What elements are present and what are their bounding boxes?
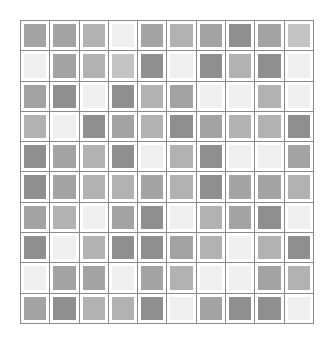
grid-cell[interactable]	[80, 112, 109, 142]
grid-cell[interactable]	[167, 112, 196, 142]
grid-cell[interactable]	[255, 233, 284, 263]
grid-cell[interactable]	[109, 233, 138, 263]
grid-cell[interactable]	[226, 172, 255, 202]
grid-cell[interactable]	[138, 51, 167, 81]
grid-cell[interactable]	[167, 172, 196, 202]
grid-cell[interactable]	[167, 294, 196, 324]
grid-cell[interactable]	[285, 82, 314, 112]
grid-cell[interactable]	[50, 294, 79, 324]
grid-cell[interactable]	[285, 172, 314, 202]
grid-cell[interactable]	[255, 263, 284, 293]
grid-cell[interactable]	[167, 82, 196, 112]
grid-cell[interactable]	[226, 203, 255, 233]
grid-cell[interactable]	[109, 21, 138, 51]
grid-cell[interactable]	[197, 112, 226, 142]
grid-cell[interactable]	[50, 263, 79, 293]
grid-cell[interactable]	[226, 112, 255, 142]
grid-cell[interactable]	[167, 233, 196, 263]
grid-cell[interactable]	[167, 263, 196, 293]
grid-cell[interactable]	[50, 233, 79, 263]
grid-cell[interactable]	[109, 294, 138, 324]
grid-cell[interactable]	[21, 112, 50, 142]
grid-cell[interactable]	[80, 294, 109, 324]
grid-cell[interactable]	[197, 203, 226, 233]
grid-cell[interactable]	[50, 142, 79, 172]
grid-cell[interactable]	[80, 233, 109, 263]
grid-cell[interactable]	[255, 21, 284, 51]
grid-cell[interactable]	[226, 263, 255, 293]
grid-cell[interactable]	[21, 21, 50, 51]
grid-cell[interactable]	[21, 233, 50, 263]
grid-cell[interactable]	[80, 82, 109, 112]
grid-cell[interactable]	[255, 142, 284, 172]
grid-cell[interactable]	[138, 82, 167, 112]
grid-cell[interactable]	[285, 51, 314, 81]
grid-cell[interactable]	[167, 51, 196, 81]
grid-cell[interactable]	[285, 112, 314, 142]
grid-cell[interactable]	[50, 203, 79, 233]
grid-cell[interactable]	[285, 203, 314, 233]
grid-cell[interactable]	[197, 172, 226, 202]
grid-cell[interactable]	[197, 263, 226, 293]
grid-cell[interactable]	[138, 172, 167, 202]
grid-cell[interactable]	[21, 142, 50, 172]
grid-cell[interactable]	[167, 21, 196, 51]
grid-cell[interactable]	[138, 112, 167, 142]
grid-cell[interactable]	[80, 263, 109, 293]
grid-cell[interactable]	[255, 294, 284, 324]
grid-cell[interactable]	[255, 112, 284, 142]
grid-cell[interactable]	[197, 233, 226, 263]
grid-cell[interactable]	[197, 51, 226, 81]
grid-cell[interactable]	[167, 203, 196, 233]
grid-cell[interactable]	[285, 142, 314, 172]
grid-cell[interactable]	[138, 263, 167, 293]
grid-cell[interactable]	[50, 51, 79, 81]
grid-cell[interactable]	[21, 172, 50, 202]
grid-cell[interactable]	[109, 82, 138, 112]
grid-cell[interactable]	[50, 21, 79, 51]
grid-cell[interactable]	[50, 172, 79, 202]
grid-cell[interactable]	[50, 82, 79, 112]
grid-cell[interactable]	[197, 82, 226, 112]
grid-cell[interactable]	[197, 21, 226, 51]
grid-cell[interactable]	[109, 51, 138, 81]
grid-cell[interactable]	[285, 233, 314, 263]
grid-cell[interactable]	[138, 142, 167, 172]
grid-cell[interactable]	[138, 233, 167, 263]
grid-cell[interactable]	[109, 203, 138, 233]
grid-cell[interactable]	[138, 294, 167, 324]
grid-cell[interactable]	[226, 51, 255, 81]
grid-cell[interactable]	[21, 203, 50, 233]
grid-cell[interactable]	[285, 294, 314, 324]
grid-cell[interactable]	[255, 172, 284, 202]
grid-cell[interactable]	[80, 203, 109, 233]
grid-cell[interactable]	[80, 172, 109, 202]
grid-cell[interactable]	[255, 203, 284, 233]
grid-cell[interactable]	[109, 263, 138, 293]
grid-cell[interactable]	[255, 51, 284, 81]
grid-cell[interactable]	[285, 21, 314, 51]
grid-cell[interactable]	[50, 112, 79, 142]
grid-cell[interactable]	[21, 294, 50, 324]
grid-cell[interactable]	[226, 294, 255, 324]
grid-cell[interactable]	[138, 21, 167, 51]
grid-cell[interactable]	[138, 203, 167, 233]
grid-cell[interactable]	[21, 51, 50, 81]
grid-cell[interactable]	[109, 142, 138, 172]
grid-cell[interactable]	[197, 142, 226, 172]
grid-cell[interactable]	[21, 82, 50, 112]
grid-cell[interactable]	[285, 263, 314, 293]
grid-cell[interactable]	[226, 21, 255, 51]
grid-cell[interactable]	[109, 172, 138, 202]
grid-cell[interactable]	[80, 142, 109, 172]
grid-cell[interactable]	[197, 294, 226, 324]
grid-cell[interactable]	[80, 21, 109, 51]
grid-cell[interactable]	[226, 233, 255, 263]
grid-cell[interactable]	[80, 51, 109, 81]
grid-cell[interactable]	[21, 263, 50, 293]
grid-cell[interactable]	[255, 82, 284, 112]
grid-cell[interactable]	[226, 142, 255, 172]
grid-cell[interactable]	[226, 82, 255, 112]
grid-cell[interactable]	[109, 112, 138, 142]
grid-cell[interactable]	[167, 142, 196, 172]
